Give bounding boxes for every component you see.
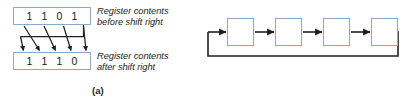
register-before-bits: 1 1 0 1 (14, 8, 90, 24)
stage-box-2 (275, 18, 302, 46)
figure-root: 1 1 0 1 1 1 1 0 Register contents before… (0, 0, 410, 102)
stage-box-1 (227, 18, 254, 46)
ring-wires-layer (205, 0, 410, 102)
register-after-bits: 1 1 1 0 (14, 53, 90, 69)
shift-arrow-1 (24, 26, 40, 51)
bit-before-0: 1 (26, 11, 34, 22)
bit-before-3: 1 (71, 11, 79, 22)
bit-before-1: 1 (41, 11, 49, 22)
shift-arrow-3 (64, 26, 72, 51)
bit-before-2: 0 (56, 11, 64, 22)
bit-after-1: 1 (41, 56, 49, 67)
bit-after-0: 1 (26, 56, 34, 67)
shift-arrow-2 (44, 26, 56, 51)
panel-shift-right-diagram: 1 1 0 1 1 1 1 0 Register contents before… (0, 0, 205, 102)
shift-arrow-4 (84, 26, 87, 51)
bit-after-2: 1 (56, 56, 64, 67)
stage-box-3 (323, 18, 350, 46)
caption-register-after: Register contents after shift right (97, 51, 169, 72)
caption-register-before: Register contents before shift right (97, 6, 169, 27)
register-after-box: 1 1 1 0 (13, 52, 91, 70)
register-before-box: 1 1 0 1 (13, 7, 91, 25)
shift-arrow-wrap (21, 37, 24, 51)
bit-after-3: 0 (71, 56, 79, 67)
stage-box-4 (371, 18, 398, 46)
subfigure-label-a: (a) (92, 85, 104, 96)
panel-circular-shift-register: (b) (205, 0, 410, 102)
